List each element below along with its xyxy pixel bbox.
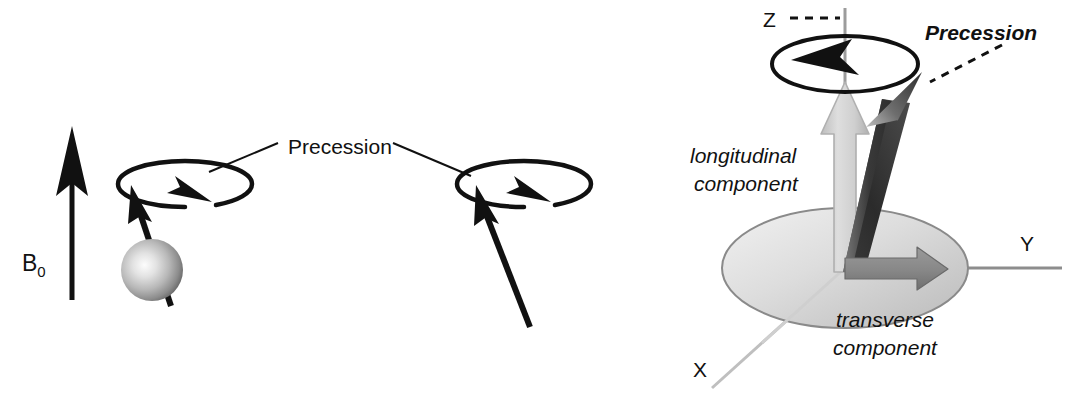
axis-y-label: Y [1020,232,1034,255]
precession-leader-line-right [393,143,471,176]
nucleus-sphere [121,239,183,301]
b0-field-arrow [56,126,88,300]
left-panel-group: B0 [22,126,591,327]
spin-without-nucleus-group [457,161,591,327]
spin-with-nucleus-group [118,161,252,306]
transverse-component-label-line2: component [833,336,938,359]
orbit-direction-arrowhead-3d [791,39,859,75]
b0-label: B0 [22,250,46,280]
precession-label-left: Precession [288,135,392,158]
figure-canvas: B0 [0,0,1070,408]
orbit-direction-arrowhead-right [506,176,551,202]
longitudinal-component-label-line2: component [694,172,799,195]
figure-root: B0 [0,0,1070,408]
axis-z-label: Z [763,8,776,31]
right-panel-group: Z Y X Precession longitudinal component … [690,8,1062,388]
transverse-component-label-line1: transverse [836,308,934,331]
precession-leader-line-left [209,143,278,172]
axis-x-label: X [693,358,707,381]
longitudinal-component-label-line1: longitudinal [690,144,798,167]
precession-dashed-leader-right [930,45,1002,82]
orbit-direction-arrowhead-left [167,176,212,202]
precession-label-right: Precession [925,21,1037,44]
